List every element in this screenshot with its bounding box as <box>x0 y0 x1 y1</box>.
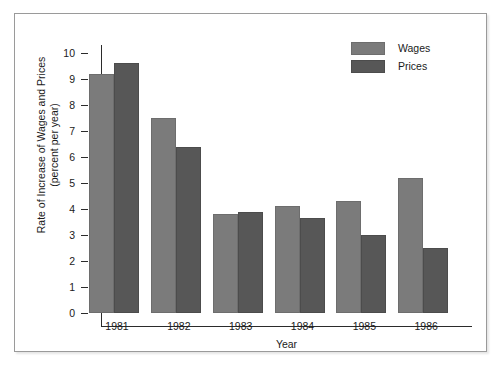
bar-prices-1981 <box>114 63 139 313</box>
y-tick-label-0: 0 <box>49 308 75 318</box>
y-tick-label-1: 1 <box>49 282 75 292</box>
bar-prices-1983 <box>238 212 263 313</box>
y-tick-5 <box>81 183 88 184</box>
legend-label-prices: Prices <box>398 60 427 72</box>
bar-wages-1986 <box>398 178 423 313</box>
legend-item-prices: Prices <box>351 59 430 73</box>
bar-wages-1983 <box>213 214 238 313</box>
y-axis-title: Rate of Increase of Wages and Prices (pe… <box>35 30 61 260</box>
bar-wages-1984 <box>275 206 300 313</box>
x-tick-label-1981: 1981 <box>82 320 152 332</box>
bar-prices-1986 <box>423 248 448 313</box>
x-tick-label-1982: 1982 <box>144 320 214 332</box>
y-tick-4 <box>81 209 88 210</box>
y-axis-title-line1: Rate of Increase of Wages and Prices <box>35 57 47 233</box>
chart-legend: Wages Prices <box>351 41 430 77</box>
legend-swatch-prices-icon <box>351 60 385 73</box>
y-axis-title-line2: (percent per year) <box>48 30 61 260</box>
legend-item-wages: Wages <box>351 41 430 55</box>
y-tick-9 <box>81 79 88 80</box>
x-tick-label-1986: 1986 <box>391 320 461 332</box>
bar-prices-1985 <box>361 235 386 313</box>
y-tick-1 <box>81 287 88 288</box>
bar-wages-1981 <box>89 74 114 313</box>
chart-figure-frame: 012345678910 198119821983198419851986 Ra… <box>14 13 487 352</box>
y-tick-6 <box>81 157 88 158</box>
y-tick-10 <box>81 53 88 54</box>
bar-prices-1982 <box>176 147 201 313</box>
legend-label-wages: Wages <box>398 42 430 54</box>
x-axis-title: Year <box>101 338 472 350</box>
y-tick-2 <box>81 261 88 262</box>
y-tick-8 <box>81 105 88 106</box>
bar-prices-1984 <box>300 218 325 313</box>
bar-wages-1982 <box>151 118 176 313</box>
y-tick-0 <box>81 313 88 314</box>
x-tick-label-1984: 1984 <box>268 320 338 332</box>
y-tick-3 <box>81 235 88 236</box>
y-tick-7 <box>81 131 88 132</box>
legend-swatch-wages-icon <box>351 42 385 55</box>
x-tick-label-1983: 1983 <box>206 320 276 332</box>
x-tick-label-1985: 1985 <box>329 320 399 332</box>
bar-wages-1985 <box>336 201 361 313</box>
